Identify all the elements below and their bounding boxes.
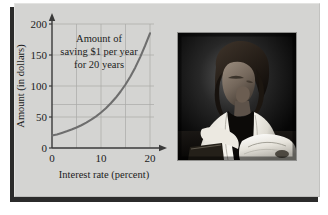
x-axis-title: Interest rate (percent) [59,169,150,181]
y-axis-arrowhead [49,13,55,21]
y-tick-labels: 0 50 100 150 200 [31,18,48,154]
x-tick-label-20: 20 [145,152,157,164]
y-tick-label-150: 150 [31,49,48,61]
y-tick-label-50: 50 [36,111,48,123]
annotation-line-3: for 20 years [74,59,124,70]
x-axis-arrowhead [159,145,167,151]
chart-annotation: Amount of saving $1 per year for 20 year… [60,33,138,70]
y-tick-label-200: 200 [31,18,48,30]
chart-svg: 0 50 100 150 200 0 10 20 Interest rate (… [4,2,178,192]
photograph-image [178,33,296,160]
x-tick-label-0: 0 [49,152,55,164]
y-tick-label-100: 100 [31,80,48,92]
chart: 0 50 100 150 200 0 10 20 Interest rate (… [4,2,178,192]
photograph [178,33,296,160]
x-tick-labels: 0 10 20 [49,152,156,164]
annotation-line-1: Amount of [76,33,122,44]
x-tick-label-10: 10 [96,152,108,164]
figure-root: 0 50 100 150 200 0 10 20 Interest rate (… [0,0,328,215]
y-tick-label-0: 0 [42,142,48,154]
annotation-line-2: saving $1 per year [60,46,138,57]
y-axis-title: Amount (in dollars) [15,44,27,128]
